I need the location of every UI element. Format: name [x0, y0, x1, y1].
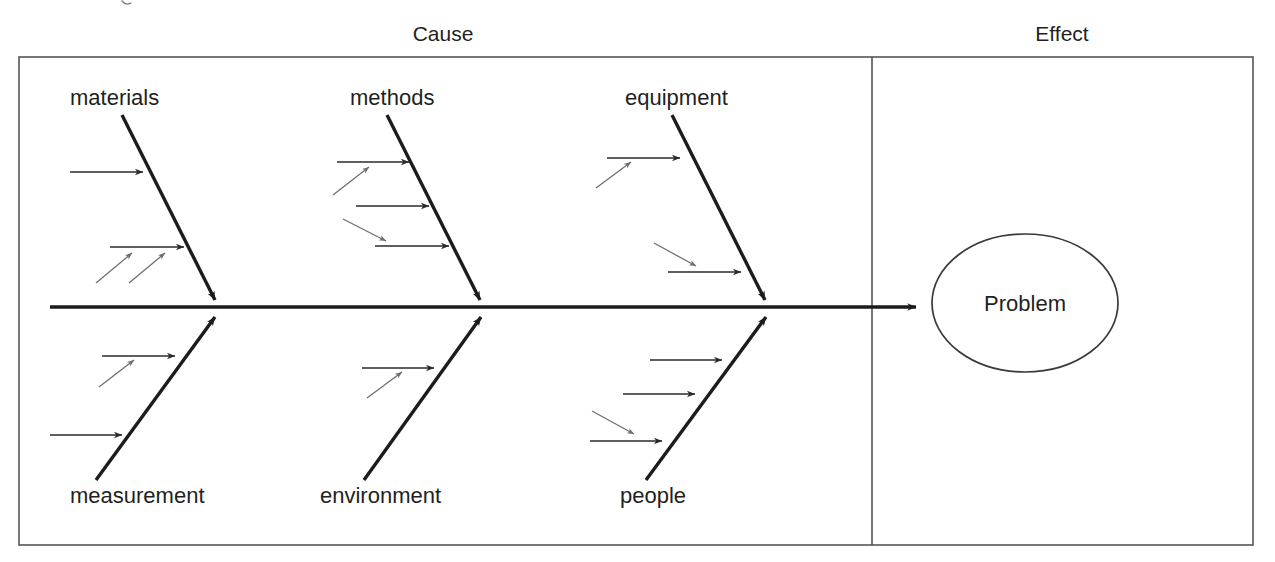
sub-arrow-materials-1 — [96, 253, 132, 283]
sub-arrow-methods-2 — [343, 219, 386, 241]
sub-arrow-equipment-2 — [654, 243, 696, 266]
branch-people: people — [590, 317, 766, 508]
sub-arrow-methods-1 — [333, 167, 369, 195]
category-label-people: people — [620, 483, 686, 508]
sub-arrow-measurement-1 — [99, 360, 134, 387]
category-label-measurement: measurement — [70, 483, 205, 508]
cause-header-label: Cause — [413, 22, 474, 45]
problem-label: Problem — [984, 291, 1066, 316]
sub-arrow-environment-1 — [367, 372, 402, 398]
fishbone-diagram-svg: Cause Effect materials methods — [0, 0, 1275, 562]
category-label-equipment: equipment — [625, 85, 728, 110]
branch-measurement: measurement — [50, 317, 215, 508]
branch-methods: methods — [333, 85, 480, 300]
category-label-methods: methods — [350, 85, 434, 110]
branch-equipment: equipment — [596, 85, 765, 300]
bone-line-people — [646, 317, 766, 480]
branch-environment: environment — [320, 317, 481, 508]
fishbone-diagram-canvas: Cause Effect materials methods — [0, 0, 1275, 562]
sub-arrow-equipment-1 — [596, 162, 631, 188]
effect-header-label: Effect — [1035, 22, 1088, 45]
sub-arrow-materials-2 — [129, 253, 165, 283]
category-label-environment: environment — [320, 483, 441, 508]
sub-arrow-people-1 — [592, 411, 634, 434]
bone-line-environment — [364, 317, 481, 480]
scan-artifact-mark — [122, 1, 131, 4]
bone-line-materials — [122, 115, 215, 300]
bone-line-measurement — [96, 317, 215, 480]
branch-materials: materials — [70, 85, 215, 300]
category-label-materials: materials — [70, 85, 159, 110]
bone-line-methods — [387, 115, 480, 300]
